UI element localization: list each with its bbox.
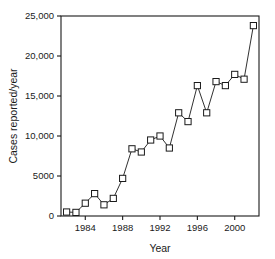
data-point-markers [64,23,257,216]
data-point-marker [92,191,98,197]
x-tick-label: 2000 [224,222,245,233]
data-point-marker [241,76,247,82]
x-tick-label: 1988 [112,222,133,233]
data-point-marker [148,137,154,143]
data-point-marker [157,133,163,139]
data-point-marker [194,83,200,89]
data-point-marker [110,195,116,201]
data-point-marker [120,175,126,181]
data-point-marker [82,200,88,206]
data-point-marker [101,202,107,208]
y-tick-label: 25,000 [25,10,54,21]
data-point-marker [73,209,79,215]
data-point-marker [138,149,144,155]
y-tick-label: 5000 [33,170,54,181]
data-point-marker [222,83,228,89]
x-tick-label: 1992 [149,222,170,233]
y-axis-title: Cases reported/year [7,68,19,164]
plot-frame [61,16,259,216]
y-tick-label: 10,000 [25,130,54,141]
chart-figure: 0500010,00015,00020,00025,000 1984198819… [0,0,275,259]
y-tick-label: 15,000 [25,90,54,101]
y-axis-tick-marks [57,16,61,216]
data-point-marker [166,145,172,151]
data-series-line [67,26,254,213]
data-point-marker [185,119,191,125]
data-point-marker [213,79,219,85]
y-axis-tick-labels: 0500010,00015,00020,00025,000 [25,10,54,221]
x-axis-tick-labels: 19841988199219962000 [75,222,246,233]
x-tick-label: 1984 [75,222,96,233]
data-point-marker [176,110,182,116]
x-tick-label: 1996 [187,222,208,233]
x-axis-tick-marks [85,216,234,220]
data-point-marker [64,209,70,215]
data-point-marker [232,71,238,77]
y-tick-label: 0 [49,210,54,221]
data-point-marker [129,146,135,152]
y-tick-label: 20,000 [25,50,54,61]
cases-per-year-line-chart: 0500010,00015,00020,00025,000 1984198819… [0,0,275,259]
x-axis-title: Year [149,242,171,254]
data-point-marker [250,23,256,29]
data-point-marker [204,110,210,116]
